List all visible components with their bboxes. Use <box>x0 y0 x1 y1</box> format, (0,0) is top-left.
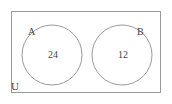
universal-set-label: U <box>11 81 19 92</box>
set-a-count: 24 <box>42 50 64 60</box>
set-b-label: B <box>137 27 144 37</box>
venn-diagram-graphics <box>0 0 172 104</box>
set-a-label: A <box>28 27 35 37</box>
venn-diagram-canvas: A B 24 12 U <box>0 0 172 104</box>
set-b-count: 12 <box>112 50 134 60</box>
